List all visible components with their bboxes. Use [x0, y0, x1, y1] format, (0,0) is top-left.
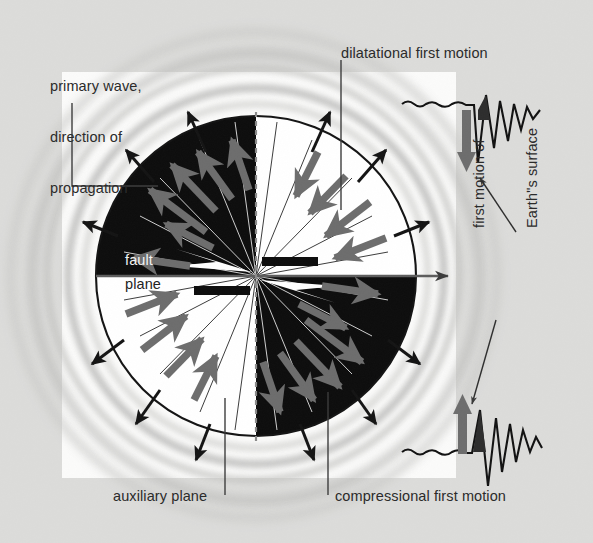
- label-dilatational-first-motion: dilatational first motion: [341, 45, 488, 62]
- label-first-motion-line2: Earthʺs surface: [524, 78, 542, 228]
- label-first-motion-earth-surface: first motion of Earthʺs surface: [436, 78, 559, 228]
- label-plane: plane: [125, 276, 161, 293]
- label-auxiliary-plane: auxiliary plane: [113, 488, 207, 505]
- label-first-motion-line1: first motion of: [471, 78, 489, 228]
- label-primary-wave-line1: primary wave,: [50, 78, 142, 95]
- label-primary-wave-line3: propagation: [50, 180, 142, 197]
- label-fault: fault: [125, 252, 153, 269]
- label-primary-wave: primary wave, direction of propagation: [50, 44, 142, 214]
- label-primary-wave-line2: direction of: [50, 129, 142, 146]
- slip-bar-lower: [194, 286, 250, 295]
- figure-canvas: primary wave, direction of propagation d…: [0, 0, 593, 543]
- slip-bar-upper: [262, 257, 318, 266]
- label-compressional-first-motion: compressional first motion: [335, 488, 506, 505]
